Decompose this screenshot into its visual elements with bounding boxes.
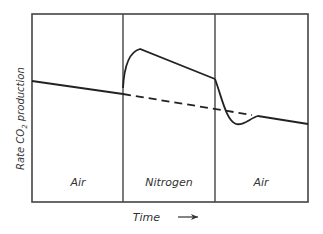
- phase-label-air-1: Air: [69, 176, 87, 189]
- phase-label-air-2: Air: [252, 176, 270, 189]
- extrapolated-baseline-dashed: [123, 94, 252, 115]
- co2-diagram: Air Nitrogen Air Time Rate CO2 productio…: [0, 0, 323, 234]
- plot-frame: [32, 14, 308, 202]
- x-axis-label: Time: [133, 211, 160, 224]
- baseline-line: [32, 81, 123, 94]
- arrow-right-icon: [178, 214, 198, 220]
- y-axis-label: Rate CO2 production: [15, 67, 29, 170]
- recovery-curve: [215, 79, 308, 124]
- phase-label-nitrogen: Nitrogen: [145, 176, 193, 189]
- nitrogen-response-curve: [123, 49, 215, 88]
